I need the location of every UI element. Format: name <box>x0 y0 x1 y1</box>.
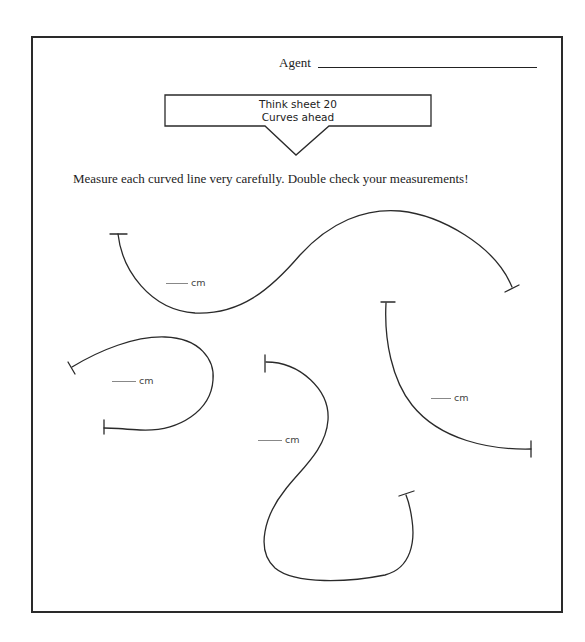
curve-2-measurement: cm <box>112 375 153 386</box>
curve-4-unit: cm <box>454 392 468 403</box>
curve-3-answer-blank[interactable] <box>258 440 282 441</box>
curve-1-unit: cm <box>191 277 205 288</box>
curve-2-answer-blank[interactable] <box>112 381 136 382</box>
curve-2-unit: cm <box>139 375 153 386</box>
curve-4-measurement: cm <box>431 392 468 403</box>
sheet-title: Think sheet 20 <box>166 98 430 111</box>
curve-4-answer-blank[interactable] <box>431 398 451 399</box>
curve-3-measurement: cm <box>258 434 299 445</box>
curve-3-unit: cm <box>285 434 299 445</box>
curve-1-answer-blank[interactable] <box>166 283 188 284</box>
curve-1-measurement: cm <box>166 277 205 288</box>
curves-drawing <box>0 0 585 642</box>
curve-4 <box>381 302 531 457</box>
title-box: Think sheet 20 Curves ahead <box>166 98 430 124</box>
curve-3 <box>264 355 414 581</box>
instructions-text: Measure each curved line very carefully.… <box>73 171 468 187</box>
sheet-subtitle: Curves ahead <box>166 111 430 124</box>
curve-1 <box>110 211 519 314</box>
